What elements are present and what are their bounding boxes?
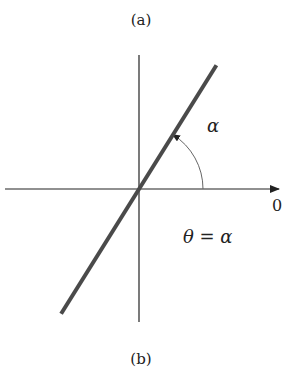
- axis-zero-label: 0: [272, 196, 282, 215]
- caption-bottom: (b): [130, 350, 151, 368]
- caption-top: (a): [131, 11, 152, 29]
- polar-line-diagram: (a) α 0 θ = α (b): [0, 0, 282, 370]
- equation-label: θ = α: [183, 226, 233, 247]
- angle-alpha-label: α: [207, 115, 219, 136]
- angle-arc: [173, 135, 203, 189]
